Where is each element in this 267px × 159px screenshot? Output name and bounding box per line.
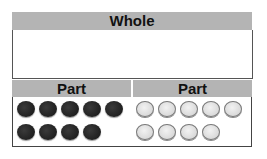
part-box-right <box>132 97 252 147</box>
part-box-left <box>12 97 133 147</box>
dark-counter-icon <box>39 124 57 140</box>
light-counter-icon <box>180 124 198 140</box>
dark-counter-icon <box>61 101 79 117</box>
dark-counter-icon <box>105 101 123 117</box>
light-counter-icon <box>202 101 220 117</box>
whole-header: Whole <box>12 12 252 30</box>
dark-counter-icon <box>39 101 57 117</box>
whole-box <box>12 30 253 79</box>
light-counter-icon <box>224 101 242 117</box>
light-counter-icon <box>180 101 198 117</box>
dark-counter-icon <box>83 124 101 140</box>
light-counter-icon <box>158 124 176 140</box>
light-counter-icon <box>136 124 154 140</box>
dark-counter-icon <box>17 124 35 140</box>
dark-counter-icon <box>61 124 79 140</box>
dark-counter-icon <box>83 101 101 117</box>
dark-counter-icon <box>17 101 35 117</box>
part-header-right: Part <box>133 80 252 97</box>
light-counter-icon <box>202 124 220 140</box>
light-counter-icon <box>158 101 176 117</box>
light-counter-icon <box>136 101 154 117</box>
part-header-left: Part <box>12 80 131 97</box>
